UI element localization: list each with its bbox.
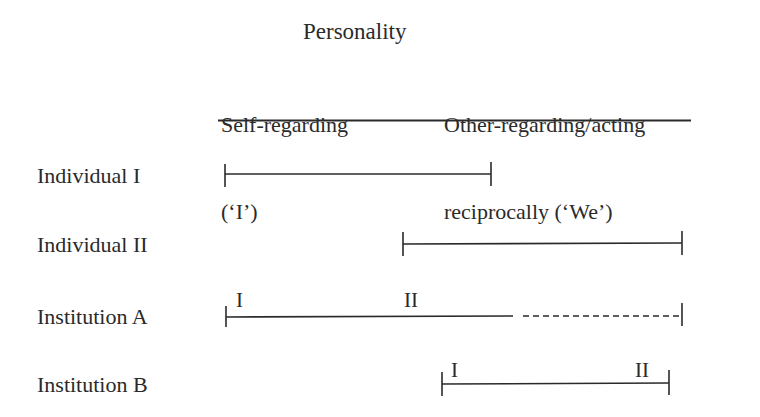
segment-institution-a bbox=[226, 303, 682, 327]
segment-individual-ii bbox=[403, 231, 682, 256]
diagram-lines bbox=[0, 0, 760, 417]
segment-individual-i bbox=[225, 162, 491, 187]
segment-institution-b bbox=[442, 370, 669, 396]
